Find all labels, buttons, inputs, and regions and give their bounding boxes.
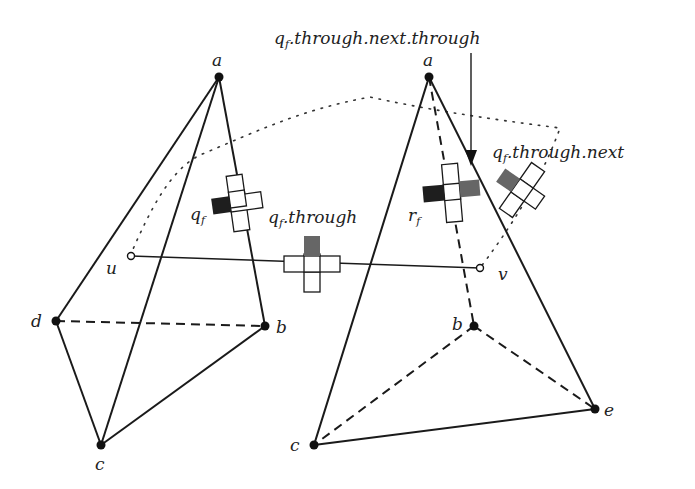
diagram-canvas: a d b c a b c e u v qf rf qf.through qf.… <box>0 0 695 489</box>
qf-filled-cell <box>211 196 231 214</box>
vertex-c-right <box>310 441 319 450</box>
label-rf: rf <box>408 205 422 228</box>
cross-qf-through <box>284 236 340 292</box>
label-d-left: d <box>31 311 42 331</box>
rf-filled-cell-grey <box>459 180 480 198</box>
vertex-b-right <box>470 322 479 331</box>
label-e-right: e <box>604 400 614 420</box>
endpoint-u <box>128 253 135 260</box>
left-tetrahedron <box>52 73 270 450</box>
label-qf-through-next: qf.through.next <box>492 142 624 165</box>
label-b-left: b <box>276 317 287 337</box>
vertex-e-right <box>591 405 600 414</box>
vertex-a-left <box>215 73 224 82</box>
label-v: v <box>498 264 508 284</box>
label-a-left: a <box>212 50 222 70</box>
cross-rf <box>421 162 483 225</box>
vertex-a-right <box>425 73 434 82</box>
through-filled-cell <box>304 236 320 256</box>
label-qf-through: qf.through <box>268 207 357 230</box>
label-c-right: c <box>290 435 300 455</box>
endpoint-v <box>477 265 484 272</box>
vertex-d-left <box>52 317 61 326</box>
cross-qf <box>208 172 265 234</box>
arrow-head-icon <box>465 150 477 166</box>
label-a-right: a <box>423 50 433 70</box>
label-qf: qf <box>190 204 207 227</box>
right-tetrahedron <box>310 73 600 450</box>
dotted-path <box>130 97 560 268</box>
rf-filled-cell-dark <box>422 185 444 203</box>
vertex-b-left <box>261 322 270 331</box>
label-qf-through-next-through: qf.through.next.through <box>274 28 480 51</box>
label-c-left: c <box>95 454 105 474</box>
vertex-c-left <box>97 441 106 450</box>
label-u: u <box>106 258 117 278</box>
label-b-right: b <box>452 314 463 334</box>
arrow-pointer <box>465 53 477 166</box>
